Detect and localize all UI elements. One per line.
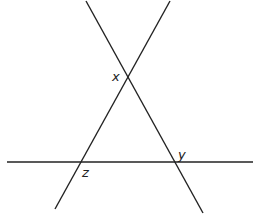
angle-label-z: z — [81, 165, 90, 180]
geometry-diagram: x y z — [0, 0, 255, 218]
angle-label-x: x — [111, 69, 120, 84]
line-descending — [86, 1, 203, 213]
angle-label-y: y — [177, 147, 186, 162]
line-ascending — [55, 1, 170, 209]
